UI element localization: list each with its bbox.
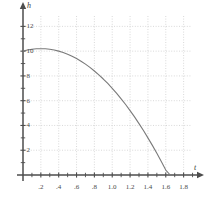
- y-tick-label: 6: [27, 97, 31, 104]
- x-tick-label: 1.4: [144, 184, 153, 191]
- x-tick-label: 1.0: [108, 184, 117, 191]
- x-tick-label: .4: [56, 184, 61, 191]
- x-axis-arrowhead: [197, 172, 204, 178]
- vertical-gridlines: [41, 16, 184, 175]
- height-curve: [23, 49, 170, 175]
- y-axis-label: h: [27, 2, 31, 10]
- x-tick-label: .8: [92, 184, 97, 191]
- chart-figure: .2.4.6.81.01.21.41.61.8 24681012 h t: [0, 0, 210, 200]
- x-tick-label: .6: [74, 184, 79, 191]
- y-tick-label: 12: [27, 23, 34, 30]
- x-axis-label: t: [194, 164, 196, 172]
- chart-plot-area: [0, 0, 210, 200]
- x-tick-label: 1.6: [161, 184, 170, 191]
- x-tick-label: 1.8: [179, 184, 188, 191]
- y-tick-label: 4: [27, 122, 31, 129]
- y-tick-label: 10: [27, 48, 34, 55]
- y-tick-label: 8: [27, 72, 31, 79]
- x-tick-label: .2: [38, 184, 43, 191]
- x-tick-label: 1.2: [126, 184, 135, 191]
- y-axis-arrowhead: [20, 2, 26, 9]
- horizontal-gridlines: [23, 26, 192, 150]
- y-tick-label: 2: [27, 147, 31, 154]
